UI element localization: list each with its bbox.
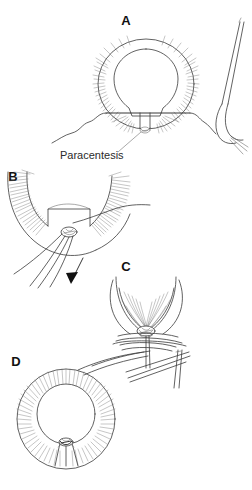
panel-c-label: C [121,259,131,274]
surgical-illustration: A [0,0,252,490]
panel-a-suture-tail-left [52,113,106,143]
panel-b-label: B [8,169,17,184]
panel-b-tail-2 [38,237,69,288]
panel-a-suture-tail-right [190,113,216,134]
panel-c-suture-throws [78,333,186,375]
panel-b-tail-4 [14,234,62,274]
panel-b-outer-arc [8,172,96,256]
panel-d-inner-opening [37,384,95,444]
panel-d-instrument [126,350,190,388]
panel-c-striations [122,292,170,330]
panel-a-label: A [121,13,131,28]
panel-c: C [78,259,186,375]
figure-canvas: A [0,0,252,490]
panel-a-annulus [98,39,194,129]
panel-b-suture-right [73,205,150,223]
panel-d: D [11,350,190,469]
panel-d-label: D [11,354,20,369]
traction-arrow-icon [66,258,83,284]
panel-c-outer-right [163,280,182,334]
panel-b-wound-flap [48,209,90,226]
panel-c-lip-right-mid [147,288,174,331]
panel-b-tail-1 [30,236,65,286]
panel-a-instrument [216,18,248,154]
panel-c-outer-left [110,280,130,334]
panel-b-inner-arc-right [90,176,112,226]
panel-b-flap-top [48,204,90,209]
panel-a: A [52,13,248,161]
paracentesis-label: Paracentesis [60,149,124,161]
panel-d-knot-region [55,438,78,466]
panel-b-knot [61,227,77,237]
panel-b-inner-arc-left [27,172,48,226]
